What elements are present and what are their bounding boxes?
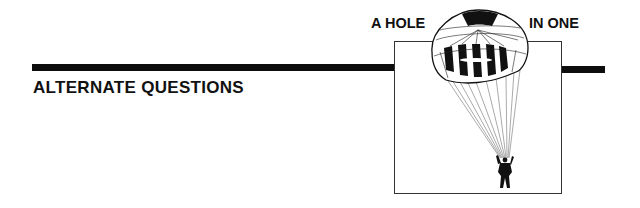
section-title: ALTERNATE QUESTIONS — [33, 78, 244, 98]
header-rule-right — [561, 66, 605, 73]
header-rule-left — [32, 64, 394, 71]
logo-text-right: IN ONE — [529, 15, 579, 31]
logo-text-left: A HOLE — [371, 15, 425, 31]
logo-frame — [394, 41, 562, 194]
